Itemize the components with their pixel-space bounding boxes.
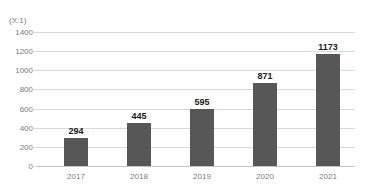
y-axis-tick-label: 1000 — [3, 66, 33, 75]
y-axis-tick-label: 1400 — [3, 28, 33, 37]
bar-value-label-2018: 445 — [117, 111, 161, 121]
y-axis-tick-label: 0 — [3, 162, 33, 171]
y-axis-tick-label: 1200 — [3, 47, 33, 56]
bar-2017[interactable] — [64, 138, 88, 166]
bar-2020[interactable] — [253, 83, 277, 166]
bar-value-label-2017: 294 — [54, 126, 98, 136]
bar-2019[interactable] — [190, 109, 214, 166]
bar-chart: (X:1) 1400 1200 1000 800 600 400 200 0 2… — [0, 0, 369, 194]
bar-value-label-2020: 871 — [243, 71, 287, 81]
x-axis-tick-label-2020: 2020 — [242, 172, 288, 181]
y-axis-tick-label: 200 — [3, 142, 33, 151]
y-axis-tick-labels: 1400 1200 1000 800 600 400 200 0 — [0, 32, 33, 166]
x-axis-tick-label-2018: 2018 — [116, 172, 162, 181]
bar-value-label-2021: 1173 — [306, 42, 350, 52]
y-axis-tick-label: 400 — [3, 123, 33, 132]
unit-caption: (X:1) — [9, 16, 26, 25]
x-axis-tick-label-2019: 2019 — [179, 172, 225, 181]
gridline — [37, 32, 355, 33]
bar-value-label-2019: 595 — [180, 97, 224, 107]
y-axis-tick-label: 600 — [3, 104, 33, 113]
y-axis-tick-label: 800 — [3, 85, 33, 94]
plot-area: 294 445 595 871 1173 — [37, 32, 355, 166]
bar-2018[interactable] — [127, 123, 151, 166]
bar-2021[interactable] — [316, 54, 340, 166]
x-axis-tick-label-2021: 2021 — [305, 172, 351, 181]
x-axis-tick-labels: 2017 2018 2019 2020 2021 — [37, 172, 355, 186]
x-axis-tick-label-2017: 2017 — [53, 172, 99, 181]
x-axis-baseline — [37, 166, 355, 167]
gridline — [37, 70, 355, 71]
gridline — [37, 89, 355, 90]
